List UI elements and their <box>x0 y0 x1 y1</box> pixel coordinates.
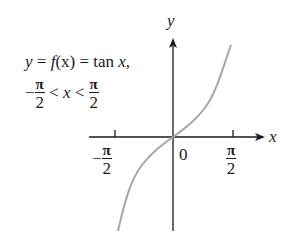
origin-label: 0 <box>179 146 188 163</box>
plot-area <box>0 0 290 240</box>
tick-label-neg-pi-half: −π2 <box>92 143 112 177</box>
function-label: y = f(x) = tan x, <box>25 53 130 70</box>
x-axis-label: x <box>269 128 277 145</box>
tick-label-pi-half: π2 <box>226 143 236 177</box>
domain-label: −π2 < x < π2 <box>25 77 99 111</box>
y-axis-label: y <box>167 12 175 29</box>
tan-curve <box>118 45 231 231</box>
